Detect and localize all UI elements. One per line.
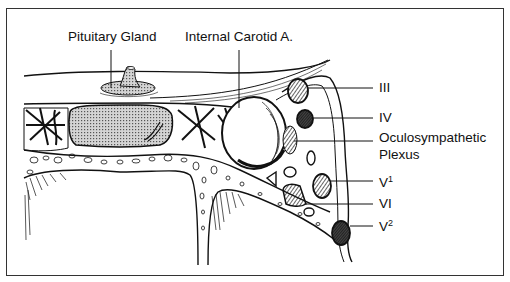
label-nerve-iv: IV (379, 111, 392, 125)
dura-line (24, 60, 330, 76)
label-nerve-iii: III (379, 81, 390, 95)
label-plexus: Plexus (379, 148, 420, 162)
nerve-iv (297, 110, 313, 128)
label-v1-base: V (379, 175, 388, 190)
label-v2-base: V (379, 219, 388, 234)
label-pituitary-gland: Pituitary Gland (68, 30, 157, 44)
internal-carotid-artery (222, 97, 297, 169)
label-v1-sup: 1 (388, 174, 393, 184)
label-internal-carotid: Internal Carotid A. (185, 30, 293, 44)
nerve-iii (288, 79, 308, 103)
shading-left (25, 173, 66, 240)
label-oculosympathetic: Oculosympathetic (379, 131, 486, 145)
floor-bone-lower (24, 170, 198, 265)
label-v2-sup: 2 (388, 218, 393, 228)
trabecular-bone-left (26, 108, 65, 145)
marrow-dots (27, 154, 320, 230)
nerve-v1 (313, 174, 331, 198)
label-nerve-vi: VI (379, 197, 392, 211)
label-nerve-v2: V2 (379, 219, 393, 234)
nerve-vi (283, 184, 306, 206)
leader-lines (294, 88, 373, 226)
shading-right (212, 192, 244, 230)
nerve-v2 (332, 221, 350, 245)
label-nerve-v1: V1 (379, 175, 393, 190)
